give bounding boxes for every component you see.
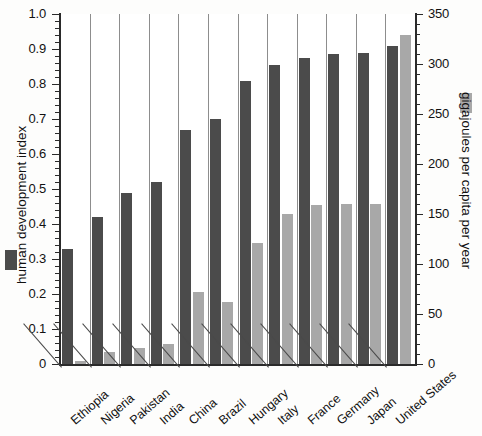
right-tick-mark [416,14,423,15]
right-tick-mark [416,314,423,315]
bar-energy [341,204,352,364]
left-minor-tick [55,147,59,148]
left-tick-mark [52,49,59,50]
left-minor-tick [55,280,59,281]
bar-energy [252,243,263,364]
right-minor-tick [416,334,420,335]
bar-energy [370,204,381,364]
right-minor-tick [416,94,420,95]
left-tick-mark [52,14,59,15]
left-minor-tick [55,70,59,71]
bar-hdi [180,130,191,365]
left-minor-tick [55,196,59,197]
left-minor-tick [55,175,59,176]
right-axis-title: gigajoules per capita per year [459,92,474,269]
left-tick-mark [52,294,59,295]
right-minor-tick [416,284,420,285]
left-minor-tick [55,105,59,106]
x-axis-label: France [305,391,344,427]
right-minor-tick [416,194,420,195]
left-tick-mark [52,84,59,85]
bar-energy [75,361,86,364]
bar-hdi [62,249,73,365]
category-separator [149,14,150,364]
left-minor-tick [55,42,59,43]
left-minor-tick [55,273,59,274]
bar-hdi [240,81,251,365]
right-minor-tick [416,304,420,305]
left-minor-tick [55,238,59,239]
right-minor-tick [416,344,420,345]
left-minor-tick [55,357,59,358]
category-separator [297,14,298,364]
left-tick-label: 0 [6,357,46,370]
left-minor-tick [55,161,59,162]
left-minor-tick [55,210,59,211]
right-minor-tick [416,74,420,75]
left-minor-tick [55,315,59,316]
left-axis-line [59,13,61,365]
left-minor-tick [55,91,59,92]
left-minor-tick [55,231,59,232]
right-minor-tick [416,84,420,85]
right-minor-tick [416,24,420,25]
right-minor-tick [416,34,420,35]
left-minor-tick [55,182,59,183]
category-separator [385,14,386,364]
category-separator [90,14,91,364]
left-minor-tick [55,252,59,253]
right-axis-line [415,13,417,365]
left-minor-tick [55,63,59,64]
right-minor-tick [416,124,420,125]
right-tick-label: 350 [428,7,468,20]
bar-energy [311,205,322,364]
x-axis-label: United States [393,368,459,428]
left-tick-label: 1.0 [6,7,46,20]
bar-energy [282,214,293,364]
left-minor-tick [55,140,59,141]
category-separator [356,14,357,364]
right-tick-mark [416,64,423,65]
right-tick-mark [416,364,423,365]
right-minor-tick [416,174,420,175]
right-minor-tick [416,204,420,205]
bar-energy [400,35,411,364]
left-tick-mark [52,189,59,190]
left-tick-label: 0.7 [6,112,46,125]
right-tick-mark [416,264,423,265]
bar-hdi [328,54,339,364]
left-minor-tick [55,35,59,36]
right-minor-tick [416,144,420,145]
right-minor-tick [416,354,420,355]
bar-hdi [210,119,221,364]
left-minor-tick [55,133,59,134]
left-tick-label: 0.8 [6,77,46,90]
bar-hdi [387,46,398,365]
category-separator [119,14,120,364]
left-minor-tick [55,217,59,218]
left-axis-title: human development index [14,126,29,284]
left-minor-tick [55,266,59,267]
left-minor-tick [55,308,59,309]
category-separator [326,14,327,364]
category-separator [238,14,239,364]
left-minor-tick [55,322,59,323]
category-separator [178,14,179,364]
bar-hdi [269,65,280,364]
left-tick-mark [52,259,59,260]
left-minor-tick [55,126,59,127]
right-minor-tick [416,104,420,105]
right-tick-mark [416,114,423,115]
left-minor-tick [55,168,59,169]
left-minor-tick [55,301,59,302]
left-minor-tick [55,287,59,288]
right-minor-tick [416,134,420,135]
left-minor-tick [55,245,59,246]
left-minor-tick [55,28,59,29]
bar-hdi [358,53,369,365]
left-tick-label: 0.2 [6,287,46,300]
right-tick-label: 50 [428,307,468,320]
left-minor-tick [55,343,59,344]
x-axis-label: China [186,396,220,428]
right-minor-tick [416,154,420,155]
